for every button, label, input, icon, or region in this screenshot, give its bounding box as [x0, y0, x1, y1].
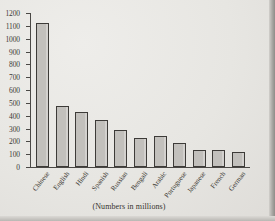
- y-tick-label-1100: 1100: [6, 22, 20, 31]
- x-axis-label-text: Russian: [110, 170, 130, 192]
- x-axis-label-text: Spanish: [90, 170, 110, 192]
- page-right-edge-shadow: [269, 0, 275, 221]
- bar-column-german: [228, 13, 248, 167]
- bar-column-hindi: [72, 13, 92, 167]
- bar-chinese: [36, 23, 49, 167]
- y-tick-label-700: 700: [9, 73, 20, 82]
- x-axis-label-text: Chinese: [31, 170, 51, 193]
- x-axis-label-text: Hindi: [74, 170, 90, 187]
- x-axis-label-text: German: [227, 170, 247, 193]
- y-tick-label-600: 600: [9, 86, 20, 95]
- x-axis-label-text: French: [209, 170, 227, 190]
- bar-column-japanese: [189, 13, 209, 167]
- bar-column-arabic: [150, 13, 170, 167]
- y-tick-label-0: 0: [16, 163, 20, 172]
- y-tick-label-300: 300: [9, 125, 20, 134]
- x-axis-label-text: Japanese: [186, 170, 208, 195]
- bar-series: [30, 13, 248, 167]
- bar-column-portuguese: [170, 13, 190, 167]
- y-tick-label-400: 400: [9, 112, 20, 121]
- page-bottom-edge-shadow: [0, 216, 275, 221]
- figure-caption: (Numbers in millions): [0, 202, 258, 211]
- x-axis-label-text: English: [51, 170, 70, 192]
- y-tick-label-1200: 1200: [5, 9, 20, 18]
- y-tick-label-800: 800: [9, 60, 20, 69]
- y-tick-label-100: 100: [9, 150, 20, 159]
- y-tick-label-200: 200: [9, 137, 20, 146]
- y-tick-label-1000: 1000: [5, 35, 20, 44]
- y-tick-label-500: 500: [9, 99, 20, 108]
- y-tick-label-900: 900: [9, 48, 20, 57]
- bar-column-french: [209, 13, 229, 167]
- bar-column-russian: [111, 13, 131, 167]
- bar-column-bengali: [131, 13, 151, 167]
- bar-column-english: [53, 13, 73, 167]
- bar-chart-figure: 1200110010009008007006005004003002001000…: [0, 0, 269, 221]
- x-axis-label-text: Bengali: [129, 170, 149, 192]
- x-axis-label-text: Arabic: [151, 170, 169, 190]
- bar-column-chinese: [33, 13, 53, 167]
- bar-column-spanish: [92, 13, 112, 167]
- plot-area: 1200110010009008007006005004003002001000: [30, 13, 248, 167]
